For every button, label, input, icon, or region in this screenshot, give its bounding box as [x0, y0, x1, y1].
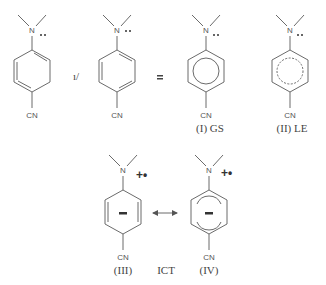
nitrogen-label: N: [203, 26, 209, 35]
anion-charge: [205, 212, 213, 215]
molecule-kekule-1: N CN: [14, 15, 50, 120]
molecule-ict-4: N +• CN (IV): [191, 155, 232, 277]
nitrile-label: CN: [111, 111, 123, 120]
label-iii: (III): [114, 264, 133, 277]
molecule-kekule-2: N CN: [99, 15, 135, 120]
molecule-ict-3: N +• CN (III): [105, 155, 147, 277]
nitrile-label: CN: [117, 253, 129, 262]
nitrogen-label: N: [114, 26, 120, 35]
nitrile-label: CN: [200, 111, 212, 120]
resonance-separator: ı/: [73, 70, 80, 82]
label-iv: (IV): [200, 264, 219, 277]
resonance-diagram: N CN ı/ N CN N CN (I) GS: [0, 0, 326, 285]
nitrogen-label: N: [120, 166, 126, 175]
nitrogen-label: N: [29, 26, 35, 35]
nitrogen-label: N: [287, 26, 293, 35]
equals-sign: [157, 75, 163, 77]
molecule-le: N CN (II) LE: [272, 15, 308, 135]
radical-cation-charge: +•: [136, 168, 147, 182]
nitrile-label: CN: [26, 111, 38, 120]
nitrogen-label: N: [206, 166, 212, 175]
label-le: (II) LE: [277, 122, 308, 135]
label-gs: (I) GS: [196, 122, 224, 135]
nitrile-label: CN: [284, 111, 296, 120]
anion-charge: [119, 212, 127, 215]
radical-cation-charge: +•: [221, 166, 232, 180]
label-ict: ICT: [157, 264, 175, 276]
molecule-gs: N CN (I) GS: [188, 15, 224, 135]
nitrile-label: CN: [203, 253, 215, 262]
